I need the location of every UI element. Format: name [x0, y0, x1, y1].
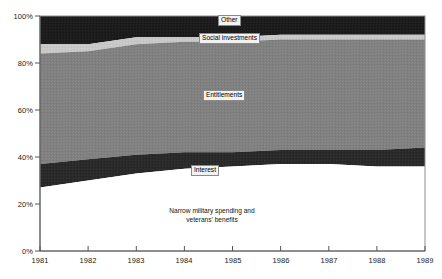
y-tick-label-20: 20% [2, 200, 33, 209]
x-tick-label-1988: 1988 [359, 256, 395, 265]
series-label-military-line1: Narrow military spending and [132, 206, 292, 215]
stacked-area-chart: 100% 80% 60% 40% 20% 0% 1981 1982 1983 1… [0, 0, 442, 279]
x-tick-label-1985: 1985 [215, 256, 251, 265]
band-entitlements [40, 40, 425, 165]
y-tick-label-40: 40% [2, 153, 33, 162]
x-tick-label-1981: 1981 [22, 256, 58, 265]
x-tick-label-1987: 1987 [311, 256, 347, 265]
series-label-military-line2: veterans' benefits [132, 215, 292, 224]
y-tick-label-0: 0% [2, 247, 33, 256]
x-tick-label-1986: 1986 [263, 256, 299, 265]
series-label-entitlements: Entitlements [203, 90, 245, 101]
x-tick-label-1983: 1983 [118, 256, 154, 265]
y-tick-marks [35, 16, 40, 251]
x-tick-label-1989: 1989 [407, 256, 442, 265]
x-tick-label-1982: 1982 [70, 256, 106, 265]
y-tick-label-60: 60% [2, 106, 33, 115]
y-axis [35, 16, 40, 251]
x-tick-label-1984: 1984 [166, 256, 202, 265]
y-tick-label-80: 80% [2, 59, 33, 68]
series-label-military: Narrow military spending and veterans' b… [132, 206, 292, 224]
series-label-interest: Interest [191, 165, 219, 176]
series-label-other: Other [218, 15, 241, 26]
y-tick-label-100: 100% [2, 12, 33, 21]
series-label-social-investments: Social investments [199, 33, 260, 44]
